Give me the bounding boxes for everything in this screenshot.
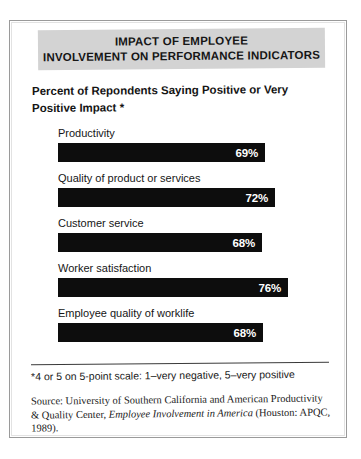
title-line-2: INVOLVEMENT ON PERFORMANCE INDICATORS: [43, 48, 320, 65]
bar-label: Customer service: [58, 216, 308, 231]
bar-track: 68%: [58, 233, 308, 252]
bar-label: Productivity: [58, 126, 308, 141]
footnote-text: *4 or 5 on 5-point scale: 1–very negativ…: [31, 367, 331, 384]
title-banner: IMPACT OF EMPLOYEE INVOLVEMENT ON PERFOR…: [38, 28, 325, 71]
bar-value: 68%: [233, 237, 262, 249]
bar-track: 72%: [58, 188, 308, 207]
bar-group: Quality of product or services 72%: [58, 171, 308, 207]
bar-label: Quality of product or services: [58, 171, 308, 186]
source-citation: Source: University of Southern Californi…: [31, 391, 331, 435]
bar-value: 72%: [246, 192, 275, 204]
bar-value: 68%: [234, 327, 263, 339]
bar-group: Customer service 68%: [58, 216, 308, 252]
bar-fill: 72%: [58, 188, 275, 207]
source-title: Employee Involvement in America: [109, 407, 253, 420]
bar-value: 76%: [259, 282, 288, 294]
bar-track: 76%: [58, 278, 308, 297]
bar-track: 69%: [58, 143, 308, 162]
bar-group: Worker satisfaction 76%: [58, 261, 308, 297]
bar-fill: 68%: [58, 323, 263, 342]
bar-group: Productivity 69%: [58, 126, 308, 162]
bar-value: 69%: [236, 147, 265, 159]
bar-fill: 69%: [58, 143, 265, 162]
title-line-1: IMPACT OF EMPLOYEE: [115, 33, 248, 49]
bar-track: 68%: [58, 323, 308, 342]
bar-label: Worker satisfaction: [58, 261, 308, 276]
bar-chart: Productivity 69% Quality of product or s…: [58, 126, 308, 351]
chart-subtitle: Percent of Repondents Saying Positive or…: [32, 81, 332, 117]
bar-group: Employee quality of worklife 68%: [58, 306, 308, 342]
bar-fill: 76%: [58, 278, 288, 297]
bar-label: Employee quality of worklife: [58, 306, 308, 321]
bar-fill: 68%: [58, 233, 262, 252]
